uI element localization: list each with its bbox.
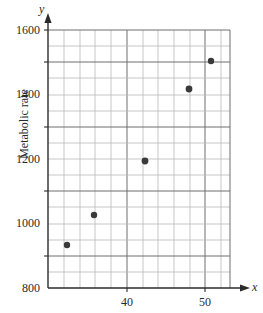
data-point: [208, 58, 214, 64]
horizontal-gridlines-minor: [48, 46, 230, 272]
y-tick-label-1600: 1600: [0, 24, 40, 36]
data-points: [64, 58, 214, 248]
data-point: [91, 212, 97, 218]
y-axis-title: Metabolic rate: [18, 64, 30, 184]
y-axis: [44, 13, 51, 288]
y-tick-label-1000: 1000: [0, 217, 40, 229]
data-point: [64, 242, 70, 248]
x-axis-variable-name: x: [252, 281, 257, 293]
x-tick-label-40: 40: [107, 296, 147, 308]
y-axis-variable-name: y: [39, 3, 44, 15]
x-axis: [48, 284, 250, 291]
y-tick-label-800: 800: [0, 282, 40, 294]
scatter-plot-figure: 1600 1400 1200 1000 800 40 50 y x Metabo…: [0, 0, 263, 313]
data-point: [186, 86, 193, 93]
x-tick-label-50: 50: [185, 296, 225, 308]
data-point: [142, 158, 149, 165]
